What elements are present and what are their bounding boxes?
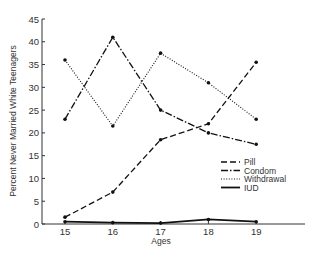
- y-tick-label: 25: [28, 105, 39, 116]
- data-point: [254, 220, 258, 224]
- chart-legend: PillCondomWithdrawalIUD: [221, 157, 286, 193]
- series-line: [65, 53, 256, 126]
- data-point: [159, 51, 163, 55]
- y-tick-label: 20: [28, 127, 39, 138]
- data-point: [159, 221, 163, 225]
- data-point: [111, 35, 115, 39]
- data-point: [207, 131, 211, 135]
- data-point: [63, 220, 67, 224]
- data-point: [63, 215, 67, 219]
- series-pill: [63, 60, 258, 218]
- series-withdrawal: [63, 51, 258, 127]
- legend-label-iud: IUD: [244, 183, 259, 193]
- x-tick-label: 15: [60, 226, 71, 237]
- y-axis-title: Percent Never Married White Teenagers: [8, 45, 18, 197]
- data-point: [111, 221, 115, 225]
- y-tick-label: 45: [28, 14, 39, 25]
- data-point: [207, 218, 211, 222]
- x-axis-title: Ages: [151, 236, 170, 246]
- data-series: [63, 35, 258, 224]
- data-point: [207, 81, 211, 85]
- chart-axes: [42, 19, 305, 224]
- y-tick-label: 30: [28, 82, 39, 93]
- x-tick-label: 18: [203, 226, 214, 237]
- data-point: [111, 190, 115, 194]
- line-chart: 051015202530354045 1516171819 Percent Ne…: [0, 0, 318, 257]
- data-point: [207, 122, 211, 126]
- data-point: [159, 108, 163, 112]
- data-point: [111, 124, 115, 128]
- data-point: [254, 142, 258, 146]
- y-tick-label: 35: [28, 59, 39, 70]
- data-point: [63, 58, 67, 62]
- y-tick-label: 15: [28, 150, 39, 161]
- y-tick-label: 0: [34, 219, 39, 230]
- y-axis-ticks: 051015202530354045: [28, 14, 45, 230]
- y-tick-label: 5: [34, 196, 39, 207]
- x-tick-label: 16: [108, 226, 119, 237]
- data-point: [254, 117, 258, 121]
- data-point: [254, 60, 258, 64]
- data-point: [63, 117, 67, 121]
- y-tick-label: 10: [28, 173, 39, 184]
- y-tick-label: 40: [28, 36, 39, 47]
- x-tick-label: 19: [251, 226, 262, 237]
- data-point: [159, 138, 163, 142]
